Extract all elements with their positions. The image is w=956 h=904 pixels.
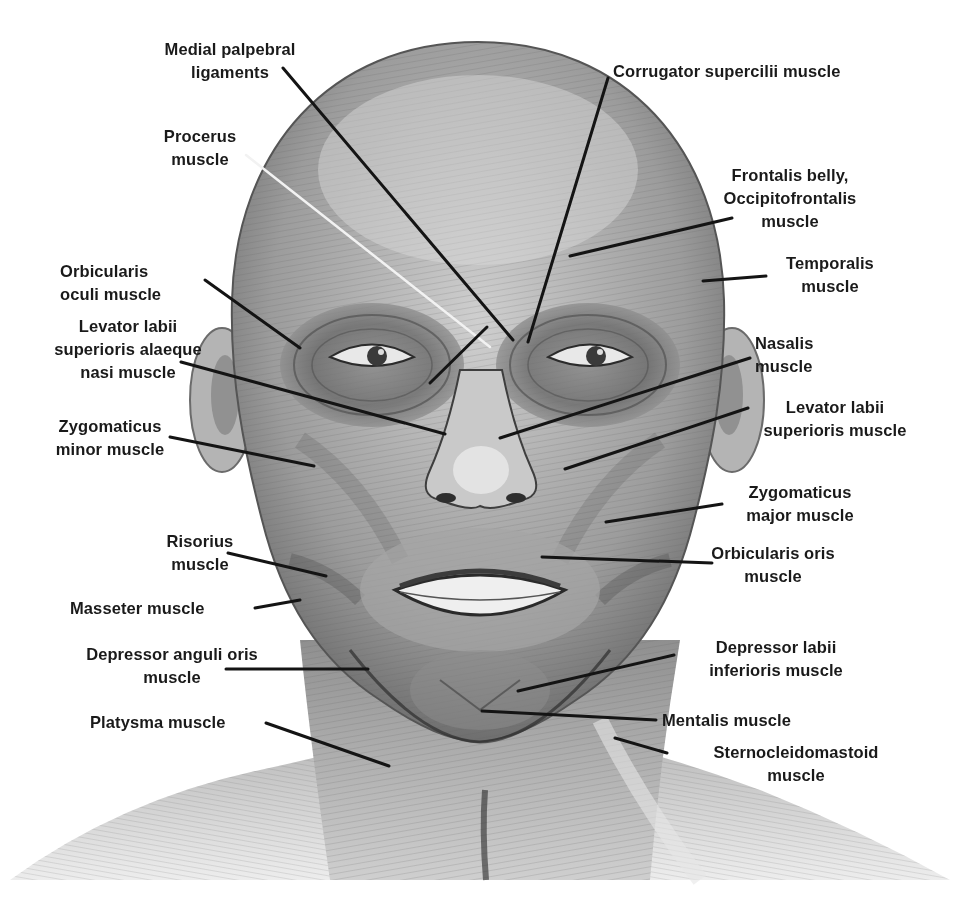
label-levator-labii-superioris-muscle: Levator labii superioris muscle: [735, 396, 935, 442]
label-depressor-anguli-oris-muscle: Depressor anguli oris muscle: [62, 643, 282, 689]
label-zygomaticus-minor-muscle: Zygomaticus minor muscle: [40, 415, 180, 461]
label-orbicularis-oris-muscle: Orbicularis oris muscle: [673, 542, 873, 588]
label-temporalis-muscle: Temporalis muscle: [760, 252, 900, 298]
label-nasalis-muscle: Nasalis muscle: [755, 332, 855, 378]
label-levator-labii-superioris-alaeque-nasi-muscle: Levator labii superioris alaeque nasi mu…: [28, 315, 228, 384]
label-mentalis-muscle: Mentalis muscle: [662, 709, 842, 732]
label-frontalis-belly-occipitofrontalis-muscle: Frontalis belly, Occipitofrontalis muscl…: [700, 164, 880, 233]
label-orbicularis-oculi-muscle: Orbicularis oculi muscle: [60, 260, 210, 306]
label-medial-palpebral-ligaments: Medial palpebral ligaments: [145, 38, 315, 84]
label-masseter-muscle: Masseter muscle: [70, 597, 250, 620]
label-depressor-labii-inferioris-muscle: Depressor labii inferioris muscle: [676, 636, 876, 682]
label-zygomaticus-major-muscle: Zygomaticus major muscle: [720, 481, 880, 527]
mouth: [360, 528, 600, 652]
label-platysma-muscle: Platysma muscle: [90, 711, 266, 734]
label-sternocleidomastoid-muscle: Sternocleidomastoid muscle: [686, 741, 906, 787]
facial-muscles-diagram: Medial palpebral ligamentsCorrugator sup…: [0, 0, 956, 904]
label-risorius-muscle: Risorius muscle: [150, 530, 250, 576]
label-corrugator-supercilii-muscle: Corrugator supercilii muscle: [613, 60, 933, 83]
label-procerus-muscle: Procerus muscle: [150, 125, 250, 171]
